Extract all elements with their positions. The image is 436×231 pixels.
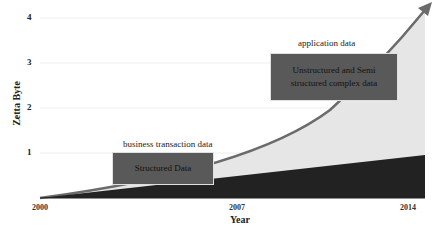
- y-axis-label: Zetta Byte: [11, 81, 22, 126]
- y-tick-1: 1: [27, 147, 32, 157]
- y-tick-2: 2: [27, 102, 32, 112]
- x-tick-2000: 2000: [32, 203, 48, 212]
- y-tick-4: 4: [27, 12, 32, 22]
- unstructured-data-box: Unstructured and Semi structured complex…: [270, 53, 398, 101]
- unstructured-text-line2: structured complex data: [291, 77, 377, 90]
- structured-data-box: Structured Data: [112, 152, 214, 185]
- chart-plot: [0, 0, 436, 231]
- unstructured-text-line1: Unstructured and Semi: [293, 64, 376, 77]
- x-tick-2014: 2014: [400, 203, 416, 212]
- chart: Zetta Byte 4 3 2 1 2000 2007 2014 Year b…: [0, 0, 436, 231]
- structured-data-text: Structured Data: [135, 162, 192, 175]
- application-data-label: application data: [298, 38, 355, 48]
- x-axis-label: Year: [230, 214, 250, 225]
- x-tick-2007: 2007: [229, 203, 245, 212]
- y-tick-3: 3: [27, 57, 32, 67]
- business-transaction-label: business transaction data: [123, 139, 212, 149]
